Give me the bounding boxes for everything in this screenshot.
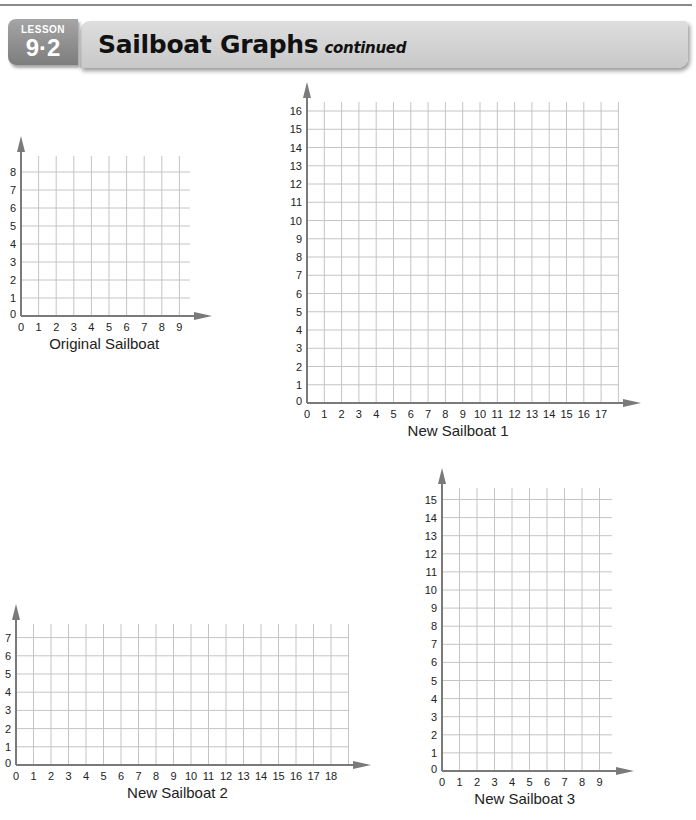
svg-text:3: 3: [431, 711, 437, 723]
svg-text:8: 8: [431, 620, 437, 632]
svg-text:5: 5: [431, 675, 437, 687]
svg-text:9: 9: [431, 602, 437, 614]
svg-text:7: 7: [431, 638, 437, 650]
svg-text:2: 2: [474, 776, 480, 788]
svg-text:2: 2: [431, 729, 437, 741]
lesson-badge: LESSON 9·2: [8, 19, 78, 65]
svg-text:3: 3: [491, 776, 497, 788]
svg-text:0: 0: [431, 763, 437, 775]
x-axis-arrow-icon: [616, 767, 634, 775]
svg-text:13: 13: [425, 530, 437, 542]
svg-text:11: 11: [426, 566, 437, 578]
lesson-number: 9·2: [8, 35, 78, 61]
svg-text:4: 4: [431, 693, 437, 705]
svg-text:0: 0: [439, 776, 445, 788]
svg-text:4: 4: [509, 776, 515, 788]
svg-text:9: 9: [596, 776, 602, 788]
svg-text:10: 10: [425, 584, 437, 596]
svg-text:14: 14: [425, 512, 437, 524]
svg-text:7: 7: [561, 776, 567, 788]
y-axis-arrow-icon: [438, 468, 446, 484]
svg-text:5: 5: [526, 776, 532, 788]
svg-text:15: 15: [425, 494, 437, 506]
svg-text:1: 1: [456, 776, 462, 788]
svg-text:12: 12: [425, 548, 437, 560]
svg-text:8: 8: [579, 776, 585, 788]
chart-caption: New Sailboat 3: [474, 790, 575, 807]
svg-text:1: 1: [431, 747, 437, 759]
coordinate-grid: 01234567891011121314150123456789: [0, 0, 696, 820]
svg-text:6: 6: [544, 776, 550, 788]
svg-text:6: 6: [431, 656, 437, 668]
